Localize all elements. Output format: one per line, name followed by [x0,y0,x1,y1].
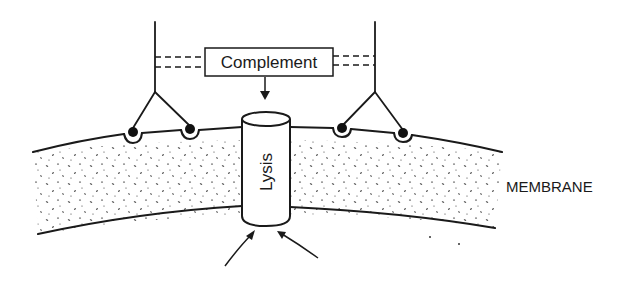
stray-dot [429,236,431,238]
antibody-left [133,22,190,128]
antigen-dot-1 [128,127,138,137]
complement-label: Complement [221,53,318,72]
lysis-pore-cylinder: Lysis [242,112,290,226]
antigen-dot-4 [398,128,408,138]
antigen-dot-3 [337,123,347,133]
membrane-label: MEMBRANE [506,178,593,195]
complement-lysis-diagram: Complement Lysis MEMBRANE [0,0,642,288]
complement-box: Complement [205,48,333,76]
stray-dot [458,243,460,245]
lysis-label: Lysis [257,153,276,191]
antibody-right [342,22,403,130]
complement-arrow-icon [260,77,270,100]
antigen-dot-2 [185,124,195,134]
inflow-arrow-right-icon [277,231,318,258]
inflow-arrow-left-icon [225,230,255,266]
